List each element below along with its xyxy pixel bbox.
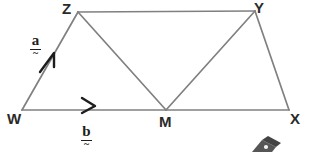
corner-watermark bbox=[252, 136, 281, 152]
vertex-label-Y: Y bbox=[254, 0, 264, 15]
vertex-label-Z: Z bbox=[62, 1, 71, 16]
vector-label-b: b ~ bbox=[81, 124, 92, 147]
segment-ZM bbox=[78, 12, 166, 110]
vertex-label-W: W bbox=[7, 111, 21, 126]
segment-WZ bbox=[22, 12, 78, 110]
geometry-figure: W M X Z Y a ~ b ~ bbox=[0, 0, 310, 152]
vector-a-glyph: a bbox=[30, 33, 41, 48]
vertex-label-X: X bbox=[290, 111, 300, 126]
figure-canvas bbox=[0, 0, 310, 152]
vector-a-tilde: ~ bbox=[30, 50, 41, 56]
vector-b-tilde: ~ bbox=[81, 141, 92, 147]
vector-label-a: a ~ bbox=[30, 33, 41, 56]
segment-YX bbox=[255, 11, 289, 110]
vector-a-arrowhead-icon bbox=[40, 53, 54, 72]
segment-ZY bbox=[78, 11, 255, 12]
vertex-label-M: M bbox=[159, 114, 172, 129]
segment-MY bbox=[166, 11, 255, 110]
vector-b-glyph: b bbox=[81, 124, 92, 139]
